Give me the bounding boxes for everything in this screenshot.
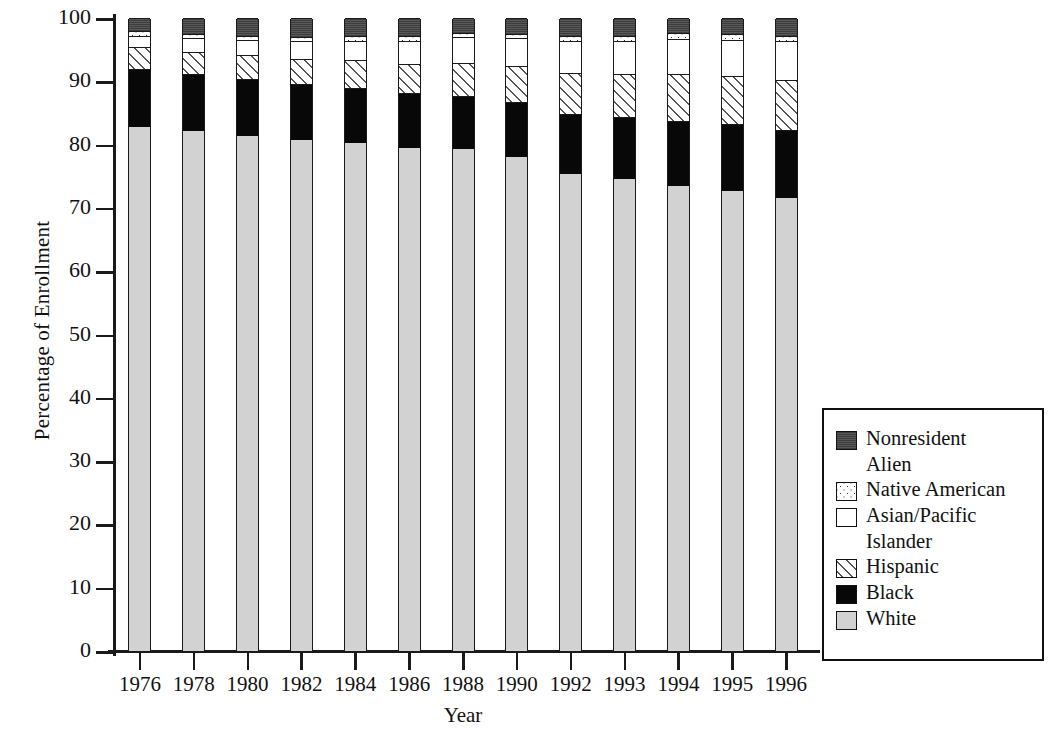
segment-nonresident-alien-1982[interactable]	[291, 18, 312, 37]
segment-black-1980[interactable]	[237, 79, 258, 136]
segment-hispanic-1993[interactable]	[614, 74, 635, 117]
segment-white-1984[interactable]	[345, 143, 366, 651]
segment-white-1995[interactable]	[722, 191, 743, 651]
segment-native-american-1995[interactable]	[722, 34, 743, 40]
segment-hispanic-1988[interactable]	[453, 63, 474, 96]
legend-item-nonresident[interactable]: Nonresident	[836, 426, 1042, 451]
bar-1993[interactable]	[613, 19, 636, 652]
segment-asian-pacific-islander-1992[interactable]	[560, 41, 581, 73]
bar-1986[interactable]	[398, 19, 421, 652]
segment-asian-pacific-islander-1980[interactable]	[237, 40, 258, 55]
segment-native-american-1988[interactable]	[453, 33, 474, 37]
segment-asian-pacific-islander-1990[interactable]	[506, 38, 527, 66]
segment-asian-pacific-islander-1978[interactable]	[183, 38, 204, 51]
segment-nonresident-alien-1993[interactable]	[614, 18, 635, 36]
segment-native-american-1993[interactable]	[614, 36, 635, 41]
segment-hispanic-1982[interactable]	[291, 59, 312, 85]
segment-asian-pacific-islander-1988[interactable]	[453, 37, 474, 63]
legend-item-native-american[interactable]: Native American	[836, 477, 1042, 502]
segment-nonresident-alien-1990[interactable]	[506, 18, 527, 34]
segment-native-american-1984[interactable]	[345, 36, 366, 40]
segment-nonresident-alien-1984[interactable]	[345, 18, 366, 36]
segment-native-american-1990[interactable]	[506, 34, 527, 38]
segment-nonresident-alien-1994[interactable]	[668, 18, 689, 33]
segment-black-1990[interactable]	[506, 102, 527, 158]
bar-1995[interactable]	[721, 19, 744, 652]
segment-white-1996[interactable]	[776, 198, 797, 651]
segment-nonresident-alien-1995[interactable]	[722, 18, 743, 34]
segment-black-1996[interactable]	[776, 130, 797, 198]
segment-white-1992[interactable]	[560, 174, 581, 651]
segment-hispanic-1980[interactable]	[237, 55, 258, 78]
segment-native-american-1986[interactable]	[399, 36, 420, 40]
bar-1988[interactable]	[452, 19, 475, 652]
segment-native-american-1980[interactable]	[237, 36, 258, 40]
segment-native-american-1996[interactable]	[776, 36, 797, 42]
segment-black-1994[interactable]	[668, 121, 689, 187]
segment-black-1992[interactable]	[560, 114, 581, 175]
segment-nonresident-alien-1992[interactable]	[560, 18, 581, 36]
segment-native-american-1992[interactable]	[560, 36, 581, 41]
segment-hispanic-1992[interactable]	[560, 73, 581, 114]
segment-hispanic-1976[interactable]	[129, 47, 150, 69]
segment-black-1984[interactable]	[345, 88, 366, 143]
bar-1996[interactable]	[775, 19, 798, 652]
segment-asian-pacific-islander-1994[interactable]	[668, 39, 689, 74]
segment-white-1994[interactable]	[668, 186, 689, 651]
segment-white-1976[interactable]	[129, 127, 150, 651]
segment-asian-pacific-islander-1982[interactable]	[291, 41, 312, 58]
segment-nonresident-alien-1978[interactable]	[183, 18, 204, 34]
segment-asian-pacific-islander-1986[interactable]	[399, 41, 420, 64]
segment-nonresident-alien-1988[interactable]	[453, 18, 474, 33]
bar-1990[interactable]	[505, 19, 528, 652]
segment-asian-pacific-islander-1993[interactable]	[614, 41, 635, 75]
segment-native-american-1978[interactable]	[183, 34, 204, 38]
y-tick-label: 50	[21, 321, 91, 347]
segment-white-1978[interactable]	[183, 131, 204, 651]
segment-hispanic-1978[interactable]	[183, 52, 204, 74]
bar-1976[interactable]	[128, 19, 151, 652]
segment-native-american-1976[interactable]	[129, 31, 150, 35]
legend-item-asian-pacific[interactable]: Asian/Pacific	[836, 503, 1042, 528]
segment-black-1978[interactable]	[183, 74, 204, 132]
legend-item-black[interactable]: Black	[836, 580, 1042, 605]
segment-hispanic-1994[interactable]	[668, 74, 689, 120]
segment-asian-pacific-islander-1984[interactable]	[345, 41, 366, 61]
segment-native-american-1994[interactable]	[668, 33, 689, 39]
segment-hispanic-1995[interactable]	[722, 76, 743, 124]
segment-asian-pacific-islander-1995[interactable]	[722, 40, 743, 77]
segment-white-1990[interactable]	[506, 157, 527, 651]
segment-white-1993[interactable]	[614, 179, 635, 651]
segment-white-1982[interactable]	[291, 140, 312, 651]
segment-nonresident-alien-1986[interactable]	[399, 18, 420, 36]
segment-black-1995[interactable]	[722, 124, 743, 190]
bar-1992[interactable]	[559, 19, 582, 652]
segment-black-1986[interactable]	[399, 93, 420, 147]
bar-1994[interactable]	[667, 19, 690, 652]
legend-item-hispanic[interactable]: Hispanic	[836, 554, 1042, 579]
legend-swatch-icon	[836, 611, 857, 630]
segment-hispanic-1990[interactable]	[506, 66, 527, 101]
segment-white-1980[interactable]	[237, 136, 258, 651]
bar-1984[interactable]	[344, 19, 367, 652]
segment-black-1976[interactable]	[129, 69, 150, 127]
segment-nonresident-alien-1980[interactable]	[237, 18, 258, 36]
segment-white-1988[interactable]	[453, 149, 474, 651]
bar-1980[interactable]	[236, 19, 259, 652]
segment-hispanic-1984[interactable]	[345, 60, 366, 88]
segment-asian-pacific-islander-1976[interactable]	[129, 36, 150, 47]
bar-1982[interactable]	[290, 19, 313, 652]
segment-hispanic-1996[interactable]	[776, 80, 797, 130]
segment-asian-pacific-islander-1996[interactable]	[776, 41, 797, 80]
segment-black-1982[interactable]	[291, 84, 312, 140]
segment-white-1986[interactable]	[399, 148, 420, 651]
segment-black-1993[interactable]	[614, 117, 635, 178]
segment-black-1988[interactable]	[453, 96, 474, 149]
legend-item-white[interactable]: White	[836, 606, 1042, 631]
y-tick-mark	[96, 18, 113, 21]
bar-1978[interactable]	[182, 19, 205, 652]
segment-nonresident-alien-1996[interactable]	[776, 18, 797, 36]
segment-hispanic-1986[interactable]	[399, 64, 420, 94]
segment-native-american-1982[interactable]	[291, 37, 312, 41]
segment-nonresident-alien-1976[interactable]	[129, 18, 150, 31]
